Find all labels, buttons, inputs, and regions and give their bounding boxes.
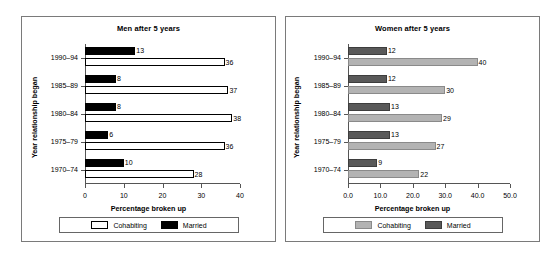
legend-women: Cohabiting Married	[323, 217, 503, 233]
bar-group: 1980–84 13 29	[348, 100, 510, 128]
legend-item-cohabiting[interactable]: Cohabiting	[91, 221, 146, 229]
x-axis-title-men: Percentage broken up	[22, 204, 275, 213]
legend-swatch-married-icon	[425, 221, 442, 229]
legend-men: Cohabiting Married	[59, 217, 239, 233]
bar-value-label: 36	[226, 59, 234, 67]
bar-married[interactable]: 6	[85, 131, 108, 139]
chart-panel-men: Men after 5 years Year relationship bega…	[21, 16, 276, 242]
bar-cohabiting[interactable]: 37	[85, 86, 228, 94]
legend-item-married[interactable]: Married	[425, 221, 471, 229]
bar-married[interactable]: 13	[348, 103, 390, 111]
bar-married[interactable]: 10	[85, 159, 124, 167]
legend-label-married: Married	[183, 222, 207, 229]
chart-panel-women: Women after 5 years Year relationship be…	[285, 16, 540, 242]
x-tick-label: 40	[236, 192, 244, 199]
bar-cohabiting[interactable]: 36	[85, 58, 225, 66]
y-tick-label: 1975–79	[314, 138, 341, 145]
chart-title-men: Men after 5 years	[22, 24, 275, 33]
bar-married[interactable]: 8	[85, 103, 116, 111]
x-tick	[445, 184, 446, 188]
bar-group: 1980–84 8 38	[85, 100, 240, 128]
y-tick-label: 1980–84	[51, 110, 78, 117]
x-axis-title-women: Percentage broken up	[286, 204, 539, 213]
bar-cohabiting[interactable]: 30	[348, 86, 445, 94]
x-tick	[201, 184, 202, 188]
bar-cohabiting[interactable]: 27	[348, 142, 436, 150]
bar-value-label: 37	[229, 87, 237, 95]
bar-married[interactable]: 12	[348, 75, 387, 83]
bar-cohabiting[interactable]: 38	[85, 114, 232, 122]
bar-value-label: 8	[117, 75, 121, 83]
figure-container: Men after 5 years Year relationship bega…	[0, 0, 554, 255]
bar-value-label: 9	[378, 159, 382, 167]
bar-group: 1990–94 13 36	[85, 44, 240, 72]
chart-title-women: Women after 5 years	[286, 24, 539, 33]
bar-value-label: 13	[391, 103, 399, 111]
bar-group: 1970–74 9 22	[348, 156, 510, 184]
bar-group: 1975–79 6 36	[85, 128, 240, 156]
legend-swatch-married-icon	[161, 221, 178, 229]
bar-married[interactable]: 8	[85, 75, 116, 83]
plot-area-women: 1990–94 12 40 1985–89 12 30	[348, 44, 510, 184]
y-tick-label: 1980–84	[314, 110, 341, 117]
bar-value-label: 6	[109, 131, 113, 139]
x-tick-label: 20	[159, 192, 167, 199]
y-tick-label: 1985–89	[314, 82, 341, 89]
bar-value-label: 28	[195, 171, 203, 179]
x-tick	[240, 184, 241, 188]
y-tick-label: 1975–79	[51, 138, 78, 145]
legend-item-married[interactable]: Married	[161, 221, 207, 229]
legend-label-cohabiting: Cohabiting	[113, 222, 146, 229]
legend-label-cohabiting: Cohabiting	[377, 222, 410, 229]
bar-married[interactable]: 13	[348, 131, 390, 139]
bar-value-label: 8	[117, 103, 121, 111]
bar-group: 1985–89 8 37	[85, 72, 240, 100]
bar-value-label: 13	[391, 131, 399, 139]
y-tick-label: 1970–74	[314, 166, 341, 173]
x-tick-label: 30	[197, 192, 205, 199]
bar-value-label: 22	[420, 171, 428, 179]
x-tick-label: 30.0	[438, 192, 452, 199]
bar-cohabiting[interactable]: 40	[348, 58, 478, 66]
bar-value-label: 12	[388, 75, 396, 83]
bar-value-label: 38	[233, 115, 241, 123]
x-tick	[510, 184, 511, 188]
bar-value-label: 29	[443, 115, 451, 123]
bar-cohabiting[interactable]: 22	[348, 170, 419, 178]
x-tick-label: 20.0	[406, 192, 420, 199]
legend-swatch-cohabiting-icon	[355, 221, 372, 229]
y-axis-title-men: Year relationship began	[30, 58, 39, 178]
bar-group: 1985–89 12 30	[348, 72, 510, 100]
bar-married[interactable]: 13	[85, 47, 135, 55]
x-tick	[478, 184, 479, 188]
bar-value-label: 30	[446, 87, 454, 95]
x-tick-label: 0	[83, 192, 87, 199]
x-tick	[380, 184, 381, 188]
bar-group: 1990–94 12 40	[348, 44, 510, 72]
bar-group: 1975–79 13 27	[348, 128, 510, 156]
y-tick-label: 1990–94	[314, 54, 341, 61]
bar-cohabiting[interactable]: 36	[85, 142, 225, 150]
bar-value-label: 27	[437, 143, 445, 151]
y-tick-label: 1985–89	[51, 82, 78, 89]
legend-item-cohabiting[interactable]: Cohabiting	[355, 221, 410, 229]
bar-value-label: 40	[479, 59, 487, 67]
bar-cohabiting[interactable]: 28	[85, 170, 194, 178]
x-tick	[348, 184, 349, 188]
x-tick-label: 50.0	[503, 192, 517, 199]
bar-cohabiting[interactable]: 29	[348, 114, 442, 122]
legend-swatch-cohabiting-icon	[91, 221, 108, 229]
y-tick-label: 1990–94	[51, 54, 78, 61]
x-tick	[413, 184, 414, 188]
plot-area-men: 1990–94 13 36 1985–89 8 37	[85, 44, 240, 184]
x-tick	[85, 184, 86, 188]
x-tick-label: 0.0	[343, 192, 353, 199]
x-tick-label: 10.0	[374, 192, 388, 199]
legend-label-married: Married	[447, 222, 471, 229]
bar-married[interactable]: 9	[348, 159, 377, 167]
bar-married[interactable]: 12	[348, 47, 387, 55]
x-tick	[124, 184, 125, 188]
x-tick-label: 40.0	[471, 192, 485, 199]
bar-value-label: 36	[226, 143, 234, 151]
y-axis-title-women: Year relationship began	[292, 58, 301, 178]
